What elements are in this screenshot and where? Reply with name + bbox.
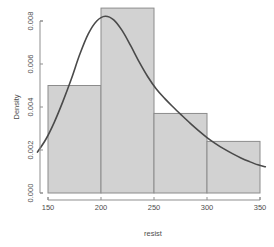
y-axis: 0.0000.0020.0040.0060.008 bbox=[26, 12, 43, 203]
x-axis-tick-label: 350 bbox=[254, 203, 267, 212]
histogram-density-plot: 0.0000.0020.0040.0060.008 15020025030035… bbox=[0, 0, 274, 247]
histogram-bar bbox=[48, 86, 101, 194]
y-axis-tick-label: 0.008 bbox=[26, 12, 35, 31]
x-axis-tick-label: 150 bbox=[42, 203, 55, 212]
y-axis-tick-label: 0.006 bbox=[26, 55, 35, 74]
y-axis-tick-label: 0.002 bbox=[26, 141, 35, 160]
histogram-bars bbox=[48, 8, 260, 193]
y-axis-tick-label: 0.004 bbox=[26, 98, 35, 117]
histogram-bar bbox=[101, 8, 154, 193]
x-axis: 150200250300350 bbox=[42, 197, 267, 212]
y-axis-tick-label: 0.000 bbox=[26, 184, 35, 203]
y-axis-title: Density bbox=[12, 94, 21, 119]
histogram-bar bbox=[207, 141, 260, 193]
x-axis-title: resist bbox=[144, 229, 163, 238]
plot-canvas: 0.0000.0020.0040.0060.008 15020025030035… bbox=[0, 0, 274, 247]
x-axis-tick-label: 250 bbox=[148, 203, 161, 212]
histogram-bar bbox=[154, 113, 207, 193]
x-axis-tick-label: 300 bbox=[201, 203, 214, 212]
x-axis-tick-label: 200 bbox=[95, 203, 108, 212]
